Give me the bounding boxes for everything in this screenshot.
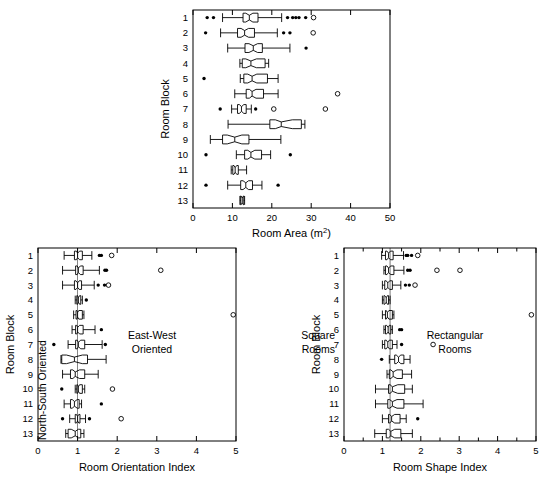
outlier-filled — [408, 283, 411, 286]
box-row — [382, 311, 533, 320]
y-tick-label: 7 — [28, 339, 33, 350]
box-row — [210, 135, 281, 144]
box — [74, 251, 82, 260]
x-tick-label: 1 — [380, 445, 385, 456]
chart-room-area: 0102030405012345678910111213Room Area (m… — [0, 0, 553, 240]
annotation: Oriented — [132, 343, 172, 355]
y-tick-label: 3 — [28, 280, 33, 291]
outlier-filled — [416, 417, 419, 420]
box — [385, 251, 393, 260]
outlier-filled — [100, 328, 103, 331]
outlier-open — [458, 268, 463, 273]
outlier-filled — [204, 153, 207, 156]
y-tick-label: 4 — [334, 294, 339, 305]
box-row — [64, 251, 114, 260]
chart-room-shape-index: 01234512345678910111213Room Shape IndexR… — [280, 240, 553, 494]
outlier-filled — [288, 31, 291, 34]
outlier-filled — [406, 254, 409, 257]
box-row — [66, 429, 84, 438]
box-row — [231, 166, 246, 175]
y-axis: 12345678910111213 — [177, 12, 188, 206]
y-tick-label: 12 — [328, 413, 339, 424]
box — [389, 385, 405, 394]
x-tick-label: 0 — [190, 212, 195, 223]
outlier-filled — [100, 402, 103, 405]
outlier-filled — [104, 343, 107, 346]
outlier-filled — [212, 16, 215, 19]
y-tick-label: 5 — [183, 73, 188, 84]
box — [223, 135, 249, 144]
y-tick-label: 8 — [28, 354, 33, 365]
y-tick-label: 8 — [183, 119, 188, 130]
y-tick-label: 11 — [178, 164, 188, 175]
boxes — [202, 13, 340, 205]
box — [395, 355, 404, 364]
y-tick-label: 12 — [22, 413, 33, 424]
y-tick-label: 9 — [28, 369, 33, 380]
outlier-filled — [61, 417, 64, 420]
box — [386, 429, 401, 438]
x-axis-label: Room Area (m2) — [252, 226, 331, 240]
box-row — [235, 89, 340, 98]
y-tick-label: 11 — [23, 398, 33, 409]
x-tick-label: 5 — [233, 445, 238, 456]
outlier-filled — [218, 107, 221, 110]
box — [244, 74, 268, 83]
outlier-open — [311, 15, 316, 20]
panel-room-area: 0102030405012345678910111213Room Area (m… — [0, 0, 553, 240]
annotation: Square — [301, 329, 335, 341]
panel-room-orientation: 01234512345678910111213Room Orientation … — [0, 240, 280, 494]
outlier-filled — [105, 269, 108, 272]
outlier-filled — [294, 16, 297, 19]
box-row — [240, 196, 245, 205]
outlier-filled — [282, 31, 285, 34]
y-tick-label: 5 — [28, 309, 33, 320]
box-row — [204, 181, 280, 190]
y-tick-label: 9 — [183, 134, 188, 145]
outlier-filled — [276, 183, 279, 186]
x-axis: 01020304050 — [190, 10, 395, 223]
box-row — [387, 370, 412, 379]
x-tick-label: 3 — [154, 445, 159, 456]
y-tick-label: 4 — [28, 294, 33, 305]
outlier-filled — [60, 387, 63, 390]
outlier-filled — [410, 254, 413, 257]
x-tick-label: 5 — [533, 445, 538, 456]
box — [242, 59, 265, 68]
y-tick-label: 7 — [183, 103, 188, 114]
box — [243, 13, 258, 22]
box-row — [74, 311, 236, 320]
outlier-filled — [380, 358, 383, 361]
outlier-filled — [304, 46, 307, 49]
box-row — [384, 266, 462, 275]
y-axis-label: Room Block — [159, 79, 171, 139]
box-row — [204, 28, 316, 37]
box-row — [75, 296, 88, 305]
box-row — [72, 325, 103, 334]
x-tick-label: 10 — [227, 212, 238, 223]
box — [241, 181, 253, 190]
box — [68, 429, 81, 438]
y-tick-label: 11 — [329, 398, 339, 409]
x-tick-label: 3 — [457, 445, 462, 456]
outlier-open — [106, 283, 111, 288]
x-tick-label: 40 — [345, 212, 356, 223]
x-tick-label: 50 — [385, 212, 396, 223]
box-row — [375, 400, 423, 409]
outlier-open — [415, 253, 420, 258]
box-row — [202, 74, 278, 83]
box — [385, 266, 393, 275]
box-row — [63, 281, 111, 290]
outlier-filled — [404, 283, 407, 286]
plot-frame — [193, 10, 390, 208]
x-tick-label: 30 — [306, 212, 317, 223]
outlier-filled — [304, 16, 307, 19]
outlier-open — [323, 107, 328, 112]
box-row — [61, 355, 106, 364]
box-row — [382, 296, 390, 305]
y-tick-label: 2 — [28, 265, 33, 276]
x-tick-label: 20 — [267, 212, 278, 223]
box — [76, 311, 82, 320]
y-tick-label: 2 — [183, 27, 188, 38]
box — [385, 281, 393, 290]
